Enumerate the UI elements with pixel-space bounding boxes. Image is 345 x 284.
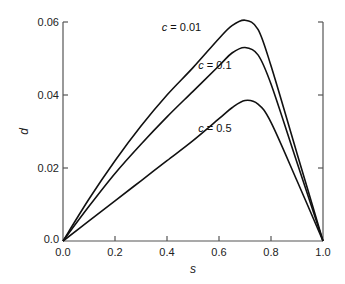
series-annotation-1: c = 0.1 (198, 59, 231, 71)
line-chart: 0.00.20.40.60.81.00.00.020.040.06sdc = 0… (0, 0, 345, 284)
series-annotation-0: c = 0.01 (162, 21, 201, 33)
x-tick-label: 0.0 (55, 246, 70, 258)
y-tick-label: 0.04 (38, 89, 59, 101)
y-axis-label: d (17, 128, 31, 135)
y-tick-label: 0.06 (38, 16, 59, 28)
x-tick-label: 0.2 (107, 246, 122, 258)
x-tick-label: 0.6 (211, 246, 226, 258)
y-tick-label: 0.0 (44, 233, 59, 245)
y-tick-label: 0.02 (38, 162, 59, 174)
plot-frame (63, 22, 323, 241)
series-line-1 (63, 48, 323, 241)
x-tick-label: 0.8 (263, 246, 278, 258)
series-line-0 (63, 20, 323, 241)
x-tick-label: 1.0 (315, 246, 330, 258)
curves (63, 20, 323, 241)
x-tick-label: 0.4 (159, 246, 174, 258)
labels: 0.00.20.40.60.81.00.00.020.040.06sdc = 0… (17, 16, 331, 276)
x-axis-label: s (190, 262, 196, 276)
series-annotation-2: c = 0.5 (198, 122, 231, 134)
